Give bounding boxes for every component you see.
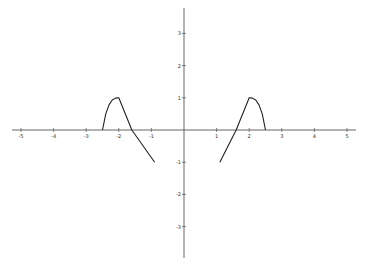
x-tick-label: -2 [116,133,121,139]
x-tick-label: -3 [84,133,89,139]
x-tick-label: -1 [149,133,154,139]
x-tick-label: 2 [248,133,251,139]
x-tick-label: 5 [345,133,348,139]
axes [12,8,356,258]
x-tick-label: 3 [280,133,283,139]
x-tick-label: -5 [19,133,24,139]
x-tick-label: 1 [215,133,218,139]
y-tick-label: -1 [176,159,181,165]
y-tick-label: 2 [178,63,181,69]
y-tick-label: 1 [178,95,181,101]
x-tick-label: -4 [51,133,56,139]
x-tick-label: 4 [313,133,316,139]
y-tick-label: -3 [176,224,181,230]
y-tick-label: 3 [178,30,181,36]
function-plot: -5-4-3-2-112345321-1-2-3 [0,0,368,269]
y-tick-label: -2 [176,191,181,197]
